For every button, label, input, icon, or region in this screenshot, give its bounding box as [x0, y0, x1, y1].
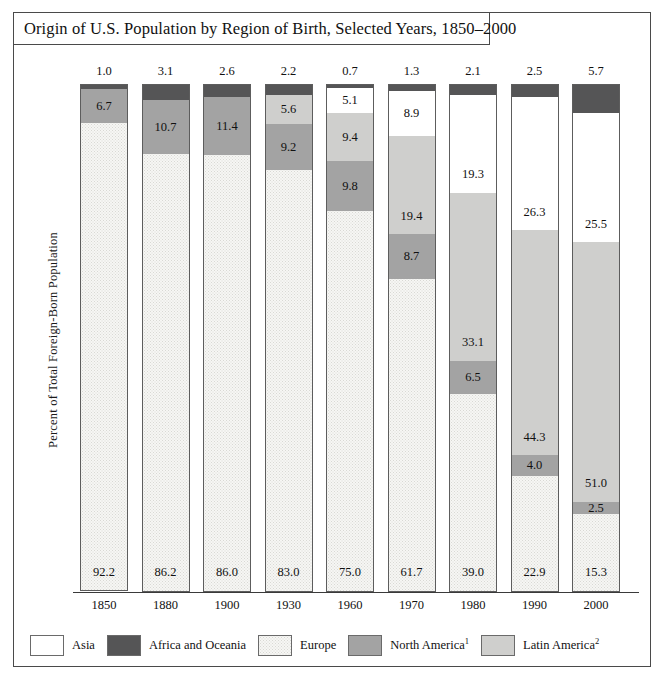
bar-segment-value: 86.2: [155, 566, 177, 579]
bar-top-value: 2.1: [449, 64, 497, 79]
bar-segment-europe[interactable]: 86.0: [203, 155, 251, 592]
bar-segment-north[interactable]: 6.5: [449, 361, 497, 394]
bar-segment-africa[interactable]: [265, 84, 313, 95]
x-axis-tick-1960: 1960: [326, 598, 374, 613]
x-axis-tick-1990: 1990: [511, 598, 559, 613]
bar-segment-value: 6.7: [96, 100, 112, 113]
bar-segment-europe[interactable]: 92.2: [80, 123, 128, 591]
bar-segment-europe[interactable]: 39.0: [449, 394, 497, 592]
bar-segment-asia[interactable]: 19.3: [449, 95, 497, 193]
bar-segment-africa[interactable]: [203, 84, 251, 97]
legend-swatch-north: [348, 635, 382, 656]
bar-segment-asia[interactable]: 26.3: [511, 97, 559, 231]
bar-segment-asia[interactable]: 8.9: [388, 91, 436, 136]
bar-segment-value: 26.3: [524, 206, 546, 219]
bar-segment-value: 25.5: [585, 218, 607, 231]
bar-segment-value: 2.5: [588, 502, 604, 515]
bar-segment-europe[interactable]: 75.0: [326, 211, 374, 592]
bar-segment-latin[interactable]: 51.0: [572, 242, 620, 501]
bar-top-value: 3.1: [142, 64, 190, 79]
legend-footnote-marker: 1: [465, 636, 469, 646]
figure-title-box: Origin of U.S. Population by Region of B…: [13, 12, 490, 45]
bar-segment-asia[interactable]: 25.5: [572, 113, 620, 243]
bar-segment-north[interactable]: 11.4: [203, 97, 251, 155]
bar-segment-europe[interactable]: 86.2: [142, 154, 190, 592]
legend-label-north: North America1: [390, 636, 469, 653]
x-axis-tick-1970: 1970: [388, 598, 436, 613]
bar-1880[interactable]: 10.786.2: [142, 84, 190, 592]
bar-segment-latin[interactable]: 9.4: [326, 113, 374, 161]
x-axis-tick-1850: 1850: [80, 598, 128, 613]
x-axis-tick-1980: 1980: [449, 598, 497, 613]
bar-1970[interactable]: 8.919.48.761.7: [388, 84, 436, 592]
bar-segment-value: 39.0: [462, 566, 484, 579]
bar-2000[interactable]: 25.551.02.515.3: [572, 84, 620, 592]
legend-item-asia[interactable]: Asia: [30, 635, 95, 656]
legend-item-latin[interactable]: Latin America2: [481, 635, 599, 656]
bar-1990[interactable]: 26.344.34.022.9: [511, 84, 559, 592]
bar-segment-value: 51.0: [585, 477, 607, 490]
bar-segment-africa[interactable]: [449, 84, 497, 95]
bar-segment-latin[interactable]: 33.1: [449, 193, 497, 361]
bar-segment-value: 9.8: [342, 180, 358, 193]
bar-segment-asia[interactable]: 5.1: [326, 88, 374, 114]
legend-swatch-africa: [107, 635, 141, 656]
bar-segment-africa[interactable]: [511, 84, 559, 97]
bar-1850[interactable]: 6.792.2: [80, 84, 128, 592]
x-axis-tick-1900: 1900: [203, 598, 251, 613]
bar-segment-value: 83.0: [278, 566, 300, 579]
bar-segment-europe[interactable]: 22.9: [511, 476, 559, 592]
bar-segment-value: 6.5: [465, 371, 481, 384]
bar-1930[interactable]: 5.69.283.0: [265, 84, 313, 592]
bar-segment-value: 61.7: [401, 566, 423, 579]
legend-item-europe[interactable]: Europe: [258, 635, 336, 656]
bar-top-value: 1.3: [388, 64, 436, 79]
bar-segment-north[interactable]: 9.2: [265, 124, 313, 171]
x-axis-line: [73, 592, 639, 593]
bar-segment-africa[interactable]: [572, 84, 620, 113]
bar-segment-value: 15.3: [585, 566, 607, 579]
bar-1900[interactable]: 11.486.0: [203, 84, 251, 592]
bar-segment-north[interactable]: 8.7: [388, 234, 436, 278]
x-axis-tick-1930: 1930: [265, 598, 313, 613]
bar-segment-africa[interactable]: [388, 84, 436, 91]
bar-segment-value: 11.4: [216, 120, 237, 133]
bar-segment-value: 86.0: [216, 566, 238, 579]
bar-top-value: 0.7: [326, 64, 374, 79]
bar-segment-africa[interactable]: [142, 84, 190, 100]
x-axis-tick-2000: 2000: [572, 598, 620, 613]
bar-1960[interactable]: 5.19.49.875.0: [326, 84, 374, 592]
bar-segment-value: 5.1: [342, 94, 358, 107]
bar-segment-europe[interactable]: 15.3: [572, 514, 620, 592]
bar-segment-value: 19.3: [462, 168, 484, 181]
bar-segment-latin[interactable]: 44.3: [511, 230, 559, 455]
bar-segment-value: 92.2: [93, 566, 115, 579]
legend-swatch-europe: [258, 635, 292, 656]
bar-segment-value: 10.7: [155, 121, 177, 134]
bar-segment-value: 4.0: [527, 459, 543, 472]
bar-segment-value: 44.3: [524, 431, 546, 444]
bar-segment-europe[interactable]: 83.0: [265, 170, 313, 592]
bar-top-value: 2.5: [511, 64, 559, 79]
bar-segment-north[interactable]: 2.5: [572, 502, 620, 515]
bar-segment-value: 19.4: [401, 210, 423, 223]
x-axis-tick-1880: 1880: [142, 598, 190, 613]
legend-label-asia: Asia: [72, 638, 95, 653]
bar-segment-north[interactable]: 6.7: [80, 89, 128, 123]
legend-item-north[interactable]: North America1: [348, 635, 469, 656]
bar-segment-value: 9.4: [342, 131, 358, 144]
legend-label-latin: Latin America2: [523, 636, 599, 653]
bar-segment-value: 8.9: [404, 107, 420, 120]
bar-segment-north[interactable]: 4.0: [511, 455, 559, 475]
legend-item-africa[interactable]: Africa and Oceania: [107, 635, 246, 656]
chart-legend: AsiaAfrica and OceaniaEuropeNorth Americ…: [30, 630, 630, 660]
bar-segment-latin[interactable]: 5.6: [265, 95, 313, 123]
bar-segment-latin[interactable]: 19.4: [388, 136, 436, 235]
bar-segment-europe[interactable]: 61.7: [388, 279, 436, 592]
bar-top-value: 2.6: [203, 64, 251, 79]
bar-segment-north[interactable]: 10.7: [142, 100, 190, 154]
chart-plot-area: Percent of Total Foreign-Born Population…: [0, 0, 665, 681]
bar-segment-value: 9.2: [281, 141, 297, 154]
bar-1980[interactable]: 19.333.16.539.0: [449, 84, 497, 592]
bar-segment-north[interactable]: 9.8: [326, 161, 374, 211]
